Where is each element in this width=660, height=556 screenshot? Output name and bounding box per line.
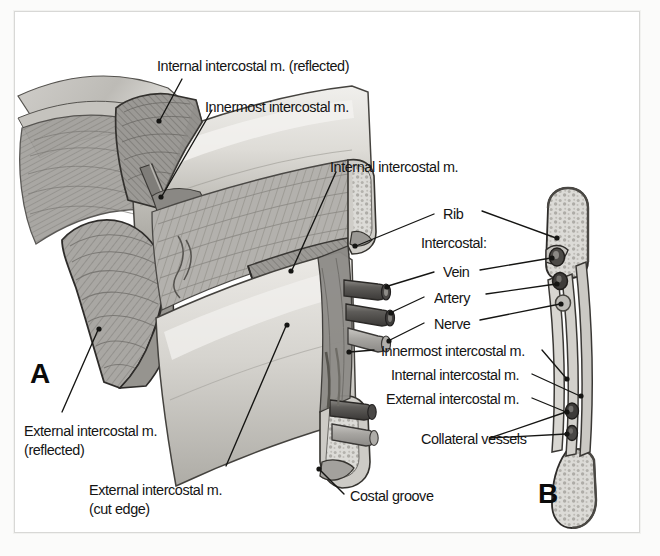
label-external-intercostal-reflected-line2: (reflected) xyxy=(24,441,84,459)
label-external-intercostal-cut-edge-line2: (cut edge) xyxy=(89,500,150,518)
label-rib: Rib xyxy=(443,205,463,223)
anatomical-illustration xyxy=(0,0,660,556)
label-internal-intercostal-b: Internal intercostal m. xyxy=(391,366,519,384)
label-artery: Artery xyxy=(434,289,470,307)
label-nerve: Nerve xyxy=(434,315,470,333)
label-collateral-vessels: Collateral vessels xyxy=(421,430,526,448)
label-intercostal-header: Intercostal: xyxy=(421,234,486,252)
label-innermost-intercostal-top: Innermost intercostal m. xyxy=(205,98,349,116)
panel-letter-b: B xyxy=(538,478,558,510)
vein-stump xyxy=(344,280,391,300)
label-internal-intercostal-reflected: Internal intercostal m. (reflected) xyxy=(157,57,349,75)
figure-page: Internal intercostal m. (reflected) Inne… xyxy=(0,0,660,556)
panel-b-illustration xyxy=(546,188,596,528)
panel-letter-a: A xyxy=(30,358,50,390)
label-external-intercostal-cut-edge-line1: External intercostal m. xyxy=(89,481,222,499)
label-innermost-intercostal-b: Innermost intercostal m. xyxy=(381,342,525,360)
label-external-intercostal-reflected-line1: External intercostal m. xyxy=(24,422,157,440)
label-vein: Vein xyxy=(443,263,469,281)
label-internal-intercostal-mid: Internal intercostal m. xyxy=(330,158,458,176)
label-costal-groove: Costal groove xyxy=(350,487,434,505)
label-external-intercostal-b: External intercostal m. xyxy=(386,390,519,408)
